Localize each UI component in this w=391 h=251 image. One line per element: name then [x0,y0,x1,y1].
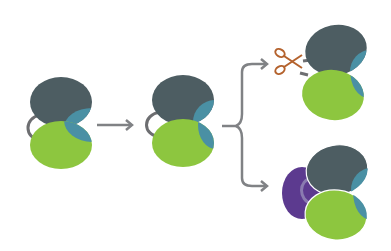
stage-cleaved [274,19,390,124]
scissors-icon [274,47,302,75]
stage-initial-molecule [28,77,120,169]
linker-stub-bottom [300,73,308,75]
branching-brace [222,59,267,191]
arrow-right [97,120,132,130]
diagram-svg [0,0,391,251]
diagram-canvas [0,0,391,251]
stage-intermediate-molecule [147,75,238,167]
stage-bound [282,140,391,243]
